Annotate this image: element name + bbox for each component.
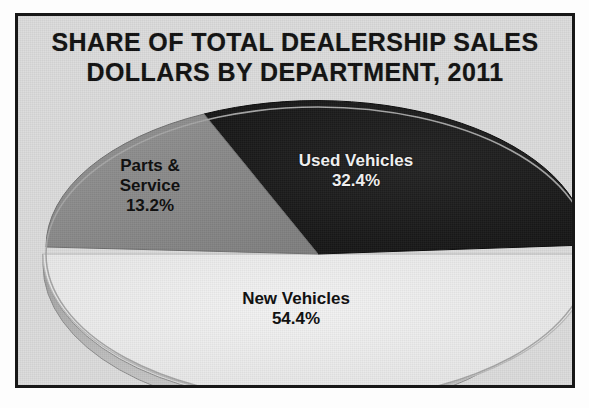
pie-label-used-vehicles: Used Vehicles 32.4%: [256, 151, 456, 191]
pie-label-new-vehicles-name: New Vehicles: [196, 289, 396, 309]
chart-title: SHARE OF TOTAL DEALERSHIP SALES DOLLARS …: [18, 28, 572, 87]
pie-label-used-vehicles-name: Used Vehicles: [256, 151, 456, 171]
pie-label-new-vehicles-value: 54.4%: [196, 309, 396, 329]
chart-title-line-1: SHARE OF TOTAL DEALERSHIP SALES: [18, 28, 572, 58]
pie-label-new-vehicles: New Vehicles 54.4%: [196, 289, 396, 329]
pie-label-parts-service-line-1: Parts &: [90, 156, 210, 176]
pie-label-parts-service: Parts & Service 13.2%: [90, 156, 210, 216]
pie-label-parts-service-value: 13.2%: [90, 196, 210, 216]
pie-label-parts-service-line-2: Service: [90, 176, 210, 196]
chart-frame: SHARE OF TOTAL DEALERSHIP SALES DOLLARS …: [15, 13, 575, 388]
pie-chart-figure: SHARE OF TOTAL DEALERSHIP SALES DOLLARS …: [0, 0, 589, 408]
chart-title-line-2: DOLLARS BY DEPARTMENT, 2011: [18, 58, 572, 88]
pie-label-used-vehicles-value: 32.4%: [256, 171, 456, 191]
